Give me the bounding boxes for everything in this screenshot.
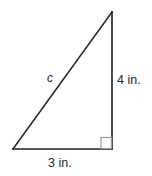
horizontal-leg-label: 3 in. <box>48 157 72 170</box>
hypotenuse-label: c <box>47 72 53 84</box>
triangle-hypotenuse-line <box>13 12 112 149</box>
right-angle-marker-icon <box>101 138 112 149</box>
right-triangle-figure: c 4 in. 3 in. <box>0 0 152 176</box>
triangle-shape <box>0 0 152 176</box>
vertical-leg-label: 4 in. <box>117 74 141 87</box>
